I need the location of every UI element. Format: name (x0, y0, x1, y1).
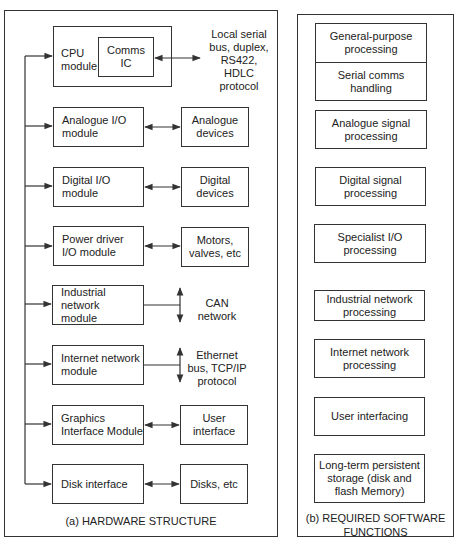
digital-io-module-box: Digital I/O module (53, 167, 144, 207)
industrial-network-module-box: Industrial network module (52, 285, 144, 325)
function-industrial-network: Industrial network processing (314, 290, 425, 321)
power-driver-module-label: Power driver I/O module (62, 233, 124, 259)
digital-io-module-label: Digital I/O module (62, 174, 110, 200)
function-persistent-storage: Long-term persistent storage (disk and f… (314, 454, 425, 503)
analogue-devices-label: Analogue devices (192, 114, 239, 140)
can-network-label: CAN network (192, 297, 242, 323)
function-analogue-signal: Analogue signal processing (315, 110, 427, 149)
function-general-purpose: General-purpose processing (315, 23, 427, 62)
comms-ic-box: Comms IC (98, 37, 154, 77)
internet-network-module-box: Internet network module (52, 345, 144, 385)
graphics-interface-module-label: Graphics Interface Module (61, 412, 143, 438)
function-serial-comms: Serial comms handling (315, 62, 427, 101)
motors-valves-label: Motors, valves, etc (189, 234, 241, 260)
power-driver-module-box: Power driver I/O module (53, 226, 144, 266)
internet-network-module-label: Internet network module (61, 352, 140, 378)
function-digital-signal: Digital signal processing (315, 167, 426, 206)
disks-label: Disks, etc (190, 478, 238, 491)
digital-devices-box: Digital devices (181, 167, 249, 207)
cpu-module-label: CPU module (61, 47, 97, 73)
function-user-interfacing: User interfacing (314, 397, 425, 436)
disks-box: Disks, etc (180, 464, 248, 504)
disk-interface-module-box: Disk interface (52, 464, 144, 504)
software-functions-caption: (b) REQUIRED SOFTWARE FUNCTIONS (297, 511, 454, 539)
user-interface-box: User interface (180, 405, 248, 445)
disk-interface-module-label: Disk interface (61, 478, 128, 491)
comms-ic-label: Comms IC (107, 44, 145, 70)
digital-devices-label: Digital devices (196, 174, 233, 200)
hardware-structure-caption: (a) HARDWARE STRUCTURE (4, 514, 278, 528)
local-serial-bus-label: Local serial bus, duplex, RS422, HDLC pr… (201, 28, 277, 93)
analogue-devices-box: Analogue devices (181, 107, 249, 147)
user-interface-label: User interface (193, 412, 235, 438)
function-internet-network: Internet network processing (314, 339, 425, 378)
ethernet-bus-label: Ethernet bus, TCP/IP protocol (183, 349, 251, 388)
analogue-io-module-label: Analogue I/O module (62, 114, 126, 140)
motors-valves-box: Motors, valves, etc (181, 227, 249, 267)
graphics-interface-module-box: Graphics Interface Module (52, 405, 144, 445)
analogue-io-module-box: Analogue I/O module (53, 107, 144, 147)
industrial-network-module-label: Industrial network module (61, 286, 143, 325)
function-specialist-io: Specialist I/O processing (314, 224, 426, 263)
